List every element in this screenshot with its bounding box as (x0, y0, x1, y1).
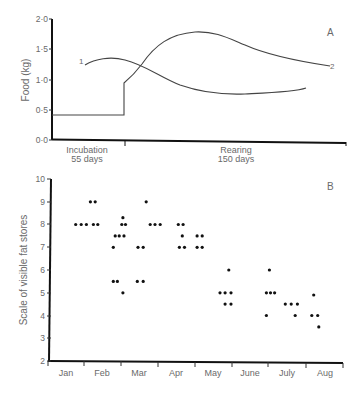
data-point (229, 303, 232, 306)
data-point (290, 303, 293, 306)
month-mar: Mar (131, 368, 147, 378)
data-point (74, 223, 77, 226)
month-june: June (240, 368, 260, 378)
month-july: July (279, 368, 296, 378)
data-point (142, 280, 145, 283)
panel-a-x-axis (52, 140, 346, 144)
y-tick-3: 3 (40, 333, 45, 343)
data-point (201, 234, 204, 237)
data-point (149, 223, 152, 226)
data-point (121, 216, 124, 219)
data-point (196, 234, 199, 237)
data-point (218, 291, 221, 294)
rearing-days: 150 days (218, 154, 255, 164)
data-point (181, 234, 184, 237)
data-point (96, 223, 99, 226)
data-point (124, 223, 127, 226)
data-point (201, 246, 204, 249)
month-may: May (204, 368, 222, 378)
month-feb: Feb (94, 368, 110, 378)
data-point (178, 246, 181, 249)
data-point (114, 234, 117, 237)
data-point (120, 223, 123, 226)
data-point (265, 314, 268, 317)
data-point (229, 291, 232, 294)
data-point (116, 280, 119, 283)
data-point (94, 200, 97, 203)
data-point (112, 280, 115, 283)
data-point (80, 223, 83, 226)
y-tick-1.0: 1·0 (36, 75, 49, 85)
data-point (159, 223, 162, 226)
data-point (89, 200, 92, 203)
figure: A 2·0 1·5 1·0 0·5 0·0 Food (kg) 1 2 Inc (0, 0, 362, 395)
data-point (177, 223, 180, 226)
y-tick-1.5: 1·5 (36, 44, 49, 54)
panel-a-y-tick-labels: 2·0 1·5 1·0 0·5 0·0 (36, 14, 49, 145)
curve-1-line (85, 58, 306, 94)
month-jan: Jan (59, 368, 74, 378)
data-point (284, 303, 287, 306)
data-point (118, 234, 121, 237)
data-point (316, 314, 319, 317)
data-point (310, 314, 313, 317)
data-point (182, 223, 185, 226)
data-point (153, 223, 156, 226)
y-tick-4: 4 (40, 311, 45, 321)
data-point (312, 293, 315, 296)
data-point (224, 291, 227, 294)
data-point (183, 246, 186, 249)
data-point (142, 246, 145, 249)
panel-b-y-axis-label: Scale of visible fat stores (18, 215, 29, 326)
panel-b-fat-scatter: B 10 9 8 7 6 5 4 3 2 Scale of visible (18, 174, 343, 378)
data-point (196, 246, 199, 249)
data-point (296, 303, 299, 306)
panel-a-label: A (327, 27, 334, 38)
data-point (136, 280, 139, 283)
data-point (92, 223, 95, 226)
data-point (317, 325, 320, 328)
scatter-points (74, 200, 320, 328)
y-tick-0.5: 0·5 (36, 105, 49, 115)
panel-b-y-tick-labels: 10 9 8 7 6 5 4 3 2 (36, 174, 46, 366)
panel-a-y-axis-label: Food (kg) (20, 59, 31, 102)
month-apr: Apr (169, 368, 183, 378)
data-point (294, 314, 297, 317)
y-tick-9: 9 (40, 197, 45, 207)
y-tick-6: 6 (40, 265, 45, 275)
panel-a-food-chart: A 2·0 1·5 1·0 0·5 0·0 Food (kg) 1 2 Inc (20, 14, 346, 164)
data-point (136, 246, 139, 249)
y-tick-8: 8 (40, 219, 45, 229)
y-tick-5: 5 (40, 288, 45, 298)
panel-b-label: B (327, 181, 334, 192)
data-point (122, 234, 125, 237)
data-point (273, 291, 276, 294)
panel-b-month-labels: Jan Feb Mar Apr May June July Aug (59, 368, 333, 378)
y-tick-0.0: 0·0 (36, 135, 49, 145)
month-aug: Aug (317, 368, 333, 378)
curve-1-label: 1 (79, 57, 84, 66)
y-tick-7: 7 (40, 242, 45, 252)
curve-2-label: 2 (330, 62, 335, 71)
data-point (145, 200, 148, 203)
y-tick-2.0: 2·0 (36, 14, 49, 24)
data-point (121, 291, 124, 294)
data-point (269, 291, 272, 294)
y-tick-2: 2 (40, 356, 45, 366)
curve-2-line (52, 32, 330, 115)
data-point (227, 268, 230, 271)
incubation-days: 55 days (71, 154, 103, 164)
data-point (265, 291, 268, 294)
data-point (224, 303, 227, 306)
data-point (85, 223, 88, 226)
data-point (112, 246, 115, 249)
y-tick-10: 10 (36, 174, 46, 184)
data-point (268, 268, 271, 271)
